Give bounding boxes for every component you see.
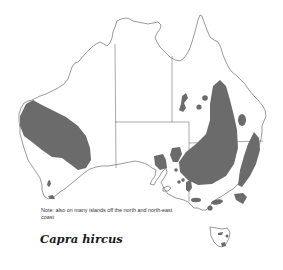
range-sa-dot-1 [174,168,178,172]
range-qld-hook [179,93,188,112]
range-sa-north [170,147,182,162]
map-note: Note: also on many islands off the north… [41,207,181,221]
range-east-coast [238,132,260,187]
range-western-australia [20,100,91,170]
range-wa-southwest-1 [47,180,51,187]
range-sa-dot-4 [185,172,188,175]
species-title: Capra hircus [40,232,123,246]
distribution-range [20,80,260,247]
australia-map [0,0,283,270]
range-sa-west [154,154,167,170]
range-eastern-main [179,80,238,185]
range-sa-dot-2 [177,180,181,184]
range-vic-west [191,198,201,202]
range-tasmania-1 [218,232,223,235]
range-qld-dot-2 [196,104,201,109]
range-vic-central [211,198,224,205]
range-sa-dot-3 [181,178,185,182]
range-qld-east-patch [238,114,246,126]
map-figure: Note: also on many islands off the north… [0,0,283,270]
range-vic-south [207,205,212,210]
range-qld-dot-1 [202,95,208,101]
range-tasmania-3 [221,242,226,247]
range-sa-southeast [186,180,192,192]
range-nsw-southeast [234,193,247,204]
range-tasmania-2 [226,235,229,238]
